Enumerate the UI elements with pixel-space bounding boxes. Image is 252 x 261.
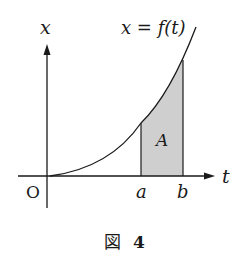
point-b-label: b: [177, 181, 189, 202]
caption-prefix: 図: [104, 232, 121, 252]
curve-label: x = f(t): [121, 17, 186, 38]
x-axis-label: t: [222, 165, 230, 187]
y-axis-label: x: [40, 16, 51, 38]
point-a-label: a: [136, 181, 147, 202]
shaded-area: [141, 60, 183, 176]
figure: x t O x = f(t) A a b 図 4: [0, 0, 252, 261]
origin-label: O: [26, 182, 40, 202]
x-axis-arrow-icon: [204, 173, 215, 180]
y-axis-arrow-icon: [44, 44, 51, 55]
caption-number: 4: [133, 232, 145, 252]
area-label: A: [154, 130, 168, 150]
